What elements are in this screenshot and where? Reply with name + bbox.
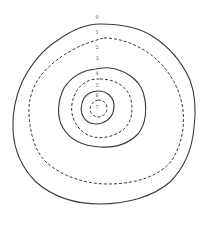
contour-label-2: 2	[95, 44, 98, 50]
contour-label-6: 6	[95, 92, 98, 98]
contour-label-4: 4	[95, 70, 98, 76]
contour-label-1: 1	[95, 29, 98, 35]
contour-label-3: 3	[95, 55, 98, 61]
contour-label-5: 5	[95, 82, 98, 88]
contour-label-7: 7	[95, 104, 98, 110]
contour-label-0: 0	[95, 14, 98, 20]
contour-map: 0 1 2 3 4 5 6 7	[0, 0, 204, 226]
contour-line-outer	[13, 24, 195, 204]
